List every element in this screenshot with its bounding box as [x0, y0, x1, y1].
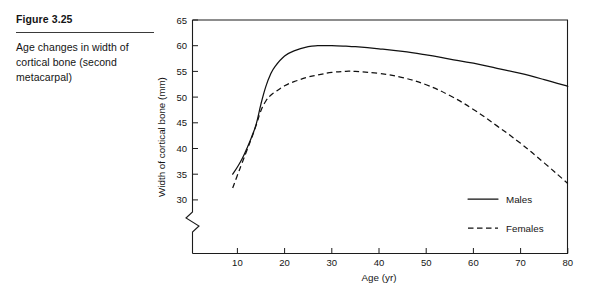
legend-label-males: Males — [506, 194, 532, 205]
y-axis-title: Width of cortical bone (mm) — [156, 77, 167, 197]
series-line-males — [233, 46, 568, 175]
figure-caption-block: Figure 3.25 Age changes in width of cort… — [16, 12, 154, 85]
y-tick-label-50: 50 — [176, 92, 187, 103]
chart-container: 65 60 55 50 45 40 35 30 Width of cortica… — [150, 0, 590, 294]
y-axis-ticks: 65 60 55 50 45 40 35 30 — [176, 15, 198, 206]
x-tick-label-10: 10 — [232, 257, 243, 268]
figure-page: Figure 3.25 Age changes in width of cort… — [0, 0, 590, 294]
y-tick-label-60: 60 — [176, 40, 187, 51]
x-tick-label-50: 50 — [421, 257, 432, 268]
x-axis-title: Age (yr) — [362, 272, 397, 283]
x-tick-label-20: 20 — [279, 257, 290, 268]
y-tick-label-65: 65 — [176, 15, 187, 26]
figure-number: Figure 3.25 — [16, 12, 154, 32]
caption-divider — [16, 32, 154, 33]
series-line-females — [233, 71, 568, 188]
x-tick-label-80: 80 — [563, 257, 574, 268]
y-tick-label-35: 35 — [176, 169, 187, 180]
plot-frame — [186, 20, 568, 254]
x-tick-label-60: 60 — [468, 257, 479, 268]
y-tick-label-55: 55 — [176, 66, 187, 77]
x-tick-label-70: 70 — [515, 257, 526, 268]
y-axis-break-icon — [186, 206, 199, 240]
y-tick-label-45: 45 — [176, 117, 187, 128]
chart-legend: Males Females — [468, 194, 544, 234]
y-tick-label-30: 30 — [176, 194, 187, 205]
line-chart: 65 60 55 50 45 40 35 30 Width of cortica… — [150, 0, 590, 294]
x-axis-ticks: 10 20 30 40 50 60 70 80 — [232, 248, 573, 268]
x-tick-label-40: 40 — [374, 257, 385, 268]
y-tick-label-40: 40 — [176, 143, 187, 154]
x-tick-label-30: 30 — [327, 257, 338, 268]
figure-caption-text: Age changes in width of cortical bone (s… — [16, 40, 154, 85]
legend-label-females: Females — [506, 223, 544, 234]
